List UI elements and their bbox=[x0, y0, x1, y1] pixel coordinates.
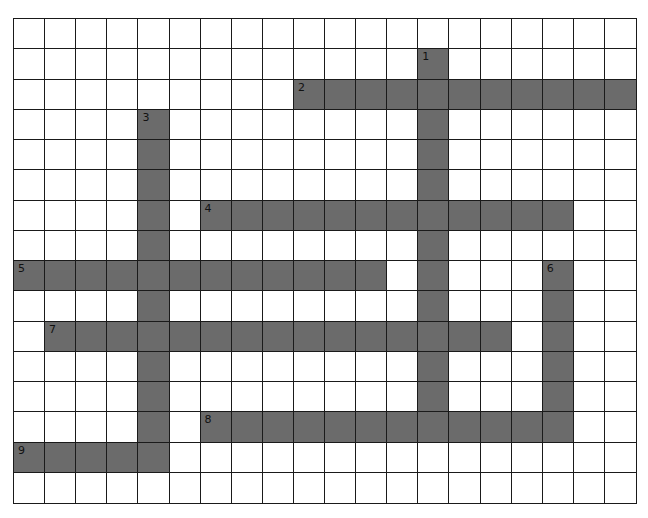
answer-cell[interactable] bbox=[107, 443, 138, 473]
answer-cell[interactable] bbox=[325, 201, 356, 231]
answer-cell[interactable] bbox=[76, 261, 107, 291]
blank-cell bbox=[418, 19, 449, 49]
answer-cell[interactable] bbox=[232, 412, 263, 442]
answer-cell[interactable] bbox=[263, 322, 294, 352]
answer-cell[interactable] bbox=[325, 80, 356, 110]
answer-cell[interactable] bbox=[138, 201, 169, 231]
answer-cell[interactable] bbox=[107, 322, 138, 352]
answer-cell[interactable] bbox=[387, 80, 418, 110]
answer-cell[interactable] bbox=[138, 352, 169, 382]
answer-cell[interactable]: 8 bbox=[201, 412, 232, 442]
answer-cell[interactable] bbox=[543, 412, 574, 442]
answer-cell[interactable]: 1 bbox=[418, 49, 449, 79]
answer-cell[interactable] bbox=[325, 322, 356, 352]
answer-cell[interactable] bbox=[574, 80, 605, 110]
answer-cell[interactable] bbox=[481, 80, 512, 110]
answer-cell[interactable] bbox=[418, 201, 449, 231]
answer-cell[interactable] bbox=[138, 412, 169, 442]
blank-cell bbox=[574, 473, 605, 503]
blank-cell bbox=[605, 140, 636, 170]
answer-cell[interactable] bbox=[543, 80, 574, 110]
answer-cell[interactable] bbox=[356, 412, 387, 442]
answer-cell[interactable] bbox=[201, 322, 232, 352]
answer-cell[interactable] bbox=[418, 140, 449, 170]
answer-cell[interactable] bbox=[138, 322, 169, 352]
answer-cell[interactable] bbox=[512, 412, 543, 442]
answer-cell[interactable] bbox=[481, 412, 512, 442]
answer-cell[interactable] bbox=[543, 201, 574, 231]
answer-cell[interactable] bbox=[418, 170, 449, 200]
answer-cell[interactable] bbox=[138, 170, 169, 200]
answer-cell[interactable]: 7 bbox=[45, 322, 76, 352]
answer-cell[interactable] bbox=[356, 322, 387, 352]
answer-cell[interactable] bbox=[387, 322, 418, 352]
answer-cell[interactable]: 3 bbox=[138, 110, 169, 140]
answer-cell[interactable] bbox=[418, 382, 449, 412]
answer-cell[interactable] bbox=[418, 352, 449, 382]
answer-cell[interactable] bbox=[76, 322, 107, 352]
answer-cell[interactable] bbox=[201, 261, 232, 291]
answer-cell[interactable] bbox=[605, 80, 636, 110]
answer-cell[interactable] bbox=[418, 412, 449, 442]
answer-cell[interactable] bbox=[325, 412, 356, 442]
answer-cell[interactable] bbox=[418, 261, 449, 291]
answer-cell[interactable]: 6 bbox=[543, 261, 574, 291]
answer-cell[interactable] bbox=[263, 201, 294, 231]
answer-cell[interactable]: 2 bbox=[294, 80, 325, 110]
answer-cell[interactable] bbox=[107, 261, 138, 291]
answer-cell[interactable] bbox=[294, 201, 325, 231]
answer-cell[interactable] bbox=[481, 322, 512, 352]
answer-cell[interactable] bbox=[356, 80, 387, 110]
answer-cell[interactable] bbox=[138, 443, 169, 473]
answer-cell[interactable] bbox=[138, 231, 169, 261]
answer-cell[interactable] bbox=[387, 201, 418, 231]
blank-cell bbox=[481, 382, 512, 412]
answer-cell[interactable] bbox=[294, 412, 325, 442]
answer-cell[interactable] bbox=[418, 291, 449, 321]
answer-cell[interactable] bbox=[263, 261, 294, 291]
answer-cell[interactable] bbox=[232, 261, 263, 291]
blank-cell bbox=[481, 170, 512, 200]
answer-cell[interactable] bbox=[76, 443, 107, 473]
answer-cell[interactable] bbox=[512, 80, 543, 110]
answer-cell[interactable] bbox=[387, 412, 418, 442]
blank-cell bbox=[263, 443, 294, 473]
answer-cell[interactable] bbox=[294, 322, 325, 352]
answer-cell[interactable] bbox=[543, 322, 574, 352]
answer-cell[interactable] bbox=[294, 261, 325, 291]
answer-cell[interactable] bbox=[418, 80, 449, 110]
answer-cell[interactable] bbox=[45, 261, 76, 291]
blank-cell bbox=[14, 291, 45, 321]
answer-cell[interactable] bbox=[232, 322, 263, 352]
answer-cell[interactable] bbox=[449, 80, 480, 110]
answer-cell[interactable] bbox=[138, 140, 169, 170]
answer-cell[interactable] bbox=[170, 322, 201, 352]
answer-cell[interactable] bbox=[170, 261, 201, 291]
answer-cell[interactable] bbox=[232, 201, 263, 231]
answer-cell[interactable] bbox=[449, 412, 480, 442]
answer-cell[interactable] bbox=[138, 261, 169, 291]
blank-cell bbox=[232, 291, 263, 321]
answer-cell[interactable]: 4 bbox=[201, 201, 232, 231]
answer-cell[interactable] bbox=[356, 261, 387, 291]
answer-cell[interactable]: 5 bbox=[14, 261, 45, 291]
answer-cell[interactable] bbox=[418, 110, 449, 140]
answer-cell[interactable] bbox=[512, 201, 543, 231]
answer-cell[interactable]: 9 bbox=[14, 443, 45, 473]
answer-cell[interactable] bbox=[543, 382, 574, 412]
answer-cell[interactable] bbox=[263, 412, 294, 442]
answer-cell[interactable] bbox=[543, 352, 574, 382]
answer-cell[interactable] bbox=[325, 261, 356, 291]
answer-cell[interactable] bbox=[543, 291, 574, 321]
answer-cell[interactable] bbox=[418, 231, 449, 261]
blank-cell bbox=[574, 352, 605, 382]
blank-cell bbox=[201, 291, 232, 321]
answer-cell[interactable] bbox=[418, 322, 449, 352]
answer-cell[interactable] bbox=[481, 201, 512, 231]
answer-cell[interactable] bbox=[45, 443, 76, 473]
answer-cell[interactable] bbox=[449, 322, 480, 352]
answer-cell[interactable] bbox=[138, 291, 169, 321]
answer-cell[interactable] bbox=[138, 382, 169, 412]
answer-cell[interactable] bbox=[356, 201, 387, 231]
answer-cell[interactable] bbox=[449, 201, 480, 231]
